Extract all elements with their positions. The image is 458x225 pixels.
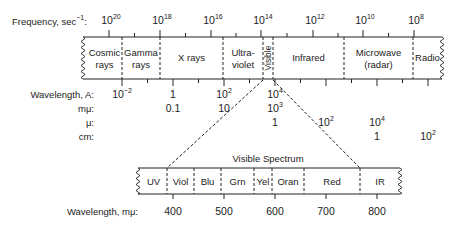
wavelength-value: 10−2 xyxy=(112,87,132,100)
visible-wavelength-tick-label: 800 xyxy=(368,205,386,217)
frequency-tick-label: 1018 xyxy=(152,13,172,26)
visible-band-oran: Oran xyxy=(277,176,298,187)
wavy-left-edge xyxy=(81,37,85,79)
frequency-label: Frequency, sec−1: xyxy=(12,14,87,27)
band-xrays-label: X rays xyxy=(178,52,205,63)
frequency-tick-label: 1014 xyxy=(253,13,273,26)
band-radio-label: Radio xyxy=(415,52,440,63)
wavelength-value: 102 xyxy=(318,115,334,128)
wavelength-value: 102 xyxy=(216,87,232,100)
wavelength-row-label: mμ: xyxy=(78,103,94,114)
visible-spectrum-title: Visible Spectrum xyxy=(232,153,303,164)
frequency-tick-label: 1016 xyxy=(203,13,223,26)
band-ultra-label-line2: violet xyxy=(232,59,255,70)
wavy-right-edge xyxy=(440,37,444,79)
visible-wavelength-tick-label: 400 xyxy=(164,205,182,217)
visible-spectrum-band: Visible SpectrumUVViolBluGrnYelOranRedIR… xyxy=(67,153,402,217)
visible-wavelength-tick-label: 600 xyxy=(266,205,284,217)
frequency-axis: Frequency, sec−1:10201018101610141012101… xyxy=(12,13,424,37)
band-microwave-label-line1: Microwave xyxy=(356,47,401,58)
wavy-left-edge xyxy=(136,168,140,194)
wavelength-value: 104 xyxy=(267,87,283,100)
visible-band-yel: Yel xyxy=(257,176,270,187)
frequency-tick-label: 1012 xyxy=(305,13,325,26)
band-gamma-label-line1: Gamma xyxy=(124,47,159,58)
visible-band-red: Red xyxy=(323,176,340,187)
frequency-tick-label: 108 xyxy=(408,13,424,26)
wavy-right-edge xyxy=(398,168,402,194)
visible-band-viol: Viol xyxy=(173,176,189,187)
wavelength-row-label: μ: xyxy=(86,117,94,128)
visible-wavelength-tick-label: 700 xyxy=(317,205,335,217)
frequency-tick-label: 1010 xyxy=(355,13,375,26)
wavelength-row-label: Wavelength, A: xyxy=(30,89,94,100)
spectrum-band: CosmicraysGammaraysX raysUltra-violetVis… xyxy=(81,37,444,86)
wavelength-row-label: cm: xyxy=(79,131,94,142)
visible-band-blu: Blu xyxy=(201,176,215,187)
visible-wavelength-label: Wavelength, mμ: xyxy=(67,206,138,217)
wavelength-scales: Wavelength, A:10−21102104mμ:0.110103μ:11… xyxy=(30,87,435,142)
wavelength-value: 0.1 xyxy=(166,102,181,114)
electromagnetic-spectrum-diagram: Frequency, sec−1:10201018101610141012101… xyxy=(0,0,458,225)
visible-band-ir: IR xyxy=(375,176,385,187)
wavelength-value: 1 xyxy=(170,88,176,100)
band-infrared-label: Infrared xyxy=(292,52,325,63)
wavelength-value: 104 xyxy=(369,115,385,128)
band-gamma-label-line2: rays xyxy=(132,59,150,70)
frequency-tick-label: 1020 xyxy=(101,13,121,26)
band-cosmic-label-line2: rays xyxy=(96,59,114,70)
band-cosmic-label-line1: Cosmic xyxy=(89,47,121,58)
wavelength-value: 1 xyxy=(374,130,380,142)
visible-band-uv: UV xyxy=(147,176,161,187)
visible-wavelength-tick-label: 500 xyxy=(215,205,233,217)
band-microwave-label-line2: (radar) xyxy=(364,59,393,70)
visible-band-grn: Grn xyxy=(230,176,246,187)
wavelength-value: 103 xyxy=(267,101,283,114)
band-visible-label: Visible xyxy=(263,45,273,70)
wavelength-value: 102 xyxy=(420,129,436,142)
band-ultra-label-line1: Ultra- xyxy=(231,47,254,58)
wavelength-value: 1 xyxy=(272,116,278,128)
